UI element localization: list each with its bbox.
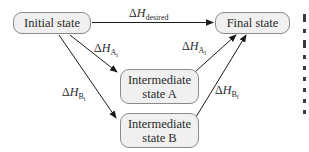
clipped-text-fragment [303,40,306,48]
subscript: Bi [78,92,85,101]
node-label: Intermediate state B [128,117,191,145]
node-label: Intermediate state A [128,73,191,101]
edge-label-delta-h-desired: ΔHdesired [129,7,169,19]
subscript: Af [198,46,206,55]
clipped-text-fragment [303,55,306,59]
edge-label-delta-h-a-initial: ΔHAi [94,42,118,55]
subsubscript-text: f [204,50,206,56]
subscript: desired [145,13,168,22]
node-initial-state: Initial state [13,12,91,34]
node-intermediate-state-a: Intermediate state A [120,69,199,104]
subsubscript-text: i [84,96,86,102]
clipped-text-fragment [303,77,306,81]
node-intermediate-state-b: Intermediate state B [120,113,199,148]
clipped-text-fragment [303,14,306,22]
edge-label-delta-h-b-final: ΔHBf [215,84,239,97]
clipped-text-fragment [303,110,306,114]
delta-symbol: Δ [215,83,223,97]
clipped-text-fragment [303,88,306,92]
delta-symbol: Δ [129,6,137,20]
clipped-text-fragment [303,66,306,70]
delta-symbol: Δ [94,41,102,55]
clipped-adjacent-text [303,14,309,121]
edge-label-delta-h-a-final: ΔHAf [182,40,206,53]
delta-symbol: Δ [182,39,190,53]
subsubscript-text: i [116,52,118,58]
subsubscript-text: f [237,94,239,100]
subscript-text: desired [145,13,168,22]
node-final-state: Final state [215,12,290,34]
node-label: Final state [227,16,279,30]
node-label: Initial state [24,16,80,30]
subscript: Bf [231,90,238,99]
delta-symbol: Δ [62,85,70,99]
subscript: Ai [110,48,117,57]
clipped-text-fragment [303,29,306,33]
edge-label-delta-h-b-initial: ΔHBi [62,86,85,99]
clipped-text-fragment [303,99,306,103]
